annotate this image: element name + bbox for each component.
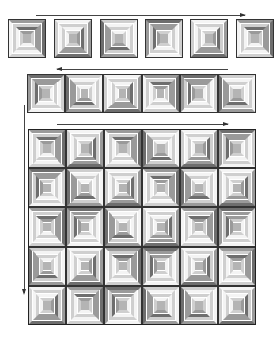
block-center-square xyxy=(23,34,30,42)
top-row-block-5 xyxy=(190,19,228,58)
quilt-grid-frame xyxy=(28,129,256,325)
middle-row-block-5 xyxy=(180,74,218,113)
middle-row-block-4 xyxy=(142,74,180,113)
block-center-square xyxy=(42,89,49,97)
middle-row-block-3 xyxy=(103,74,141,113)
top-row-block-4 xyxy=(145,19,183,58)
block-center-square xyxy=(115,34,122,42)
quilt-top-arrow-head-icon xyxy=(223,122,229,126)
block-center-square xyxy=(160,34,167,42)
top-row-arrow-head-icon xyxy=(240,13,246,17)
top-row-block-2 xyxy=(54,19,92,58)
middle-row-arrow xyxy=(57,69,228,70)
quilt-left-arrow xyxy=(24,105,25,293)
middle-row-block-2 xyxy=(65,74,103,113)
block-center-square xyxy=(251,34,258,42)
top-row-block-3 xyxy=(100,19,138,58)
block-center-square xyxy=(69,34,76,42)
quilt-left-arrow-head-icon xyxy=(22,289,26,295)
quilt-top-arrow xyxy=(57,124,228,125)
top-row-block-1 xyxy=(8,19,46,58)
top-row-arrow xyxy=(36,15,245,16)
block-center-square xyxy=(205,34,212,42)
block-center-square xyxy=(233,89,240,97)
middle-row-arrow-head-icon xyxy=(56,67,62,71)
middle-row-block-1 xyxy=(27,74,65,113)
top-row-block-6 xyxy=(236,19,274,58)
block-center-square xyxy=(157,89,164,97)
block-center-square xyxy=(195,89,202,97)
block-center-square xyxy=(119,89,126,97)
block-center-square xyxy=(81,89,88,97)
middle-row-block-6 xyxy=(218,74,256,113)
